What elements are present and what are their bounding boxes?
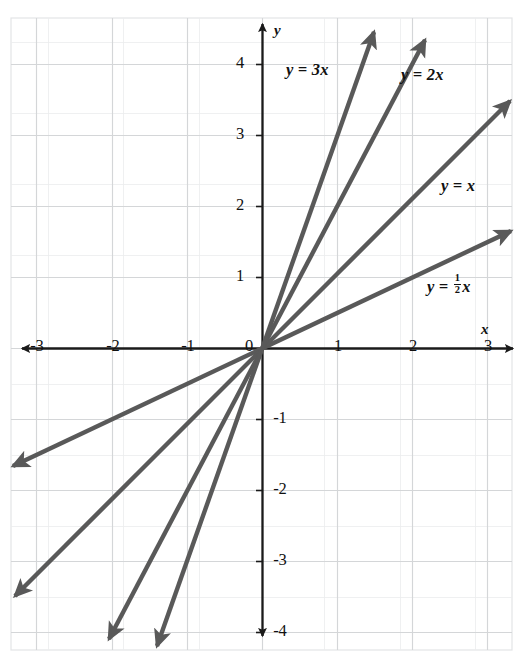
annotation-half-prefix: y = (427, 277, 453, 296)
x-tick-label-1: 1 (329, 336, 347, 356)
coordinate-plane-graph (0, 0, 524, 659)
fraction-one-half: 12 (454, 273, 461, 295)
y-axis-label: y (274, 22, 281, 39)
x-tick-label--1: -1 (173, 336, 203, 356)
x-tick-label--3: -3 (22, 336, 52, 356)
y-tick-label-4: 4 (231, 53, 249, 73)
y-tick-label-1: 1 (231, 266, 249, 286)
fraction-denominator: 2 (454, 285, 461, 296)
y-tick-label--1: -1 (265, 408, 295, 428)
annotation-y-equals-2x: y = 2x (401, 65, 444, 85)
y-tick-label-3: 3 (231, 124, 249, 144)
y-tick-label-2: 2 (231, 195, 249, 215)
x-tick-label-3: 3 (479, 336, 497, 356)
annotation-y-equals-x: y = x (441, 176, 475, 196)
x-tick-label-2: 2 (404, 336, 422, 356)
x-tick-label-0: 0 (240, 336, 258, 356)
x-tick-label--2: -2 (98, 336, 128, 356)
chart-canvas: y x -3 -2 -1 0 1 2 3 4 3 2 1 -1 -2 -3 -4… (0, 0, 524, 659)
annotation-half-suffix: x (462, 277, 470, 296)
fraction-numerator: 1 (454, 273, 461, 285)
y-tick-label--2: -2 (265, 479, 295, 499)
annotation-y-equals-half-x: y = 12x (427, 273, 471, 297)
y-tick-label--3: -3 (265, 550, 295, 570)
annotation-y-equals-3x: y = 3x (286, 60, 329, 80)
y-tick-label--4: -4 (265, 621, 295, 641)
